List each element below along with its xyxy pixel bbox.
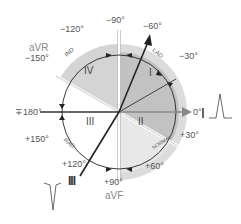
label-m150: −150° [25, 54, 49, 63]
axis-m60-arrowhead [144, 34, 152, 46]
lead-III-waveform [44, 183, 61, 210]
axis-diagram: −90° −60° −30° −120° −150° 0° ∓180° +30°… [0, 0, 241, 224]
lead-avr-label: aVR [29, 43, 48, 53]
quadrant-II-label: II [138, 117, 144, 127]
lead-I-arrowhead [182, 107, 192, 117]
lead-I-waveform [209, 94, 232, 118]
label-p60: +60° [145, 162, 164, 171]
label-p30: +30° [180, 131, 199, 140]
label-m90: −90° [106, 16, 125, 25]
arrowhead-180-bottom [59, 115, 65, 120]
lead-avf-label: aVF [105, 191, 123, 201]
lead-III-label: III [68, 175, 75, 187]
label-p120: +120° [62, 160, 86, 169]
arrowhead-180-top [59, 104, 65, 109]
label-p150: +150° [25, 135, 49, 144]
label-m30: −30° [179, 52, 198, 61]
label-m120: −120° [60, 25, 84, 34]
label-p90: +90° [104, 178, 123, 187]
quadrant-I-label: I [149, 68, 152, 78]
label-m60: −60° [143, 22, 162, 31]
label-0: 0° [193, 108, 202, 117]
label-pm180: ∓180° [15, 108, 42, 117]
quadrant-IV-label: IV [84, 66, 93, 76]
quadrant-III-label: III [86, 117, 94, 127]
